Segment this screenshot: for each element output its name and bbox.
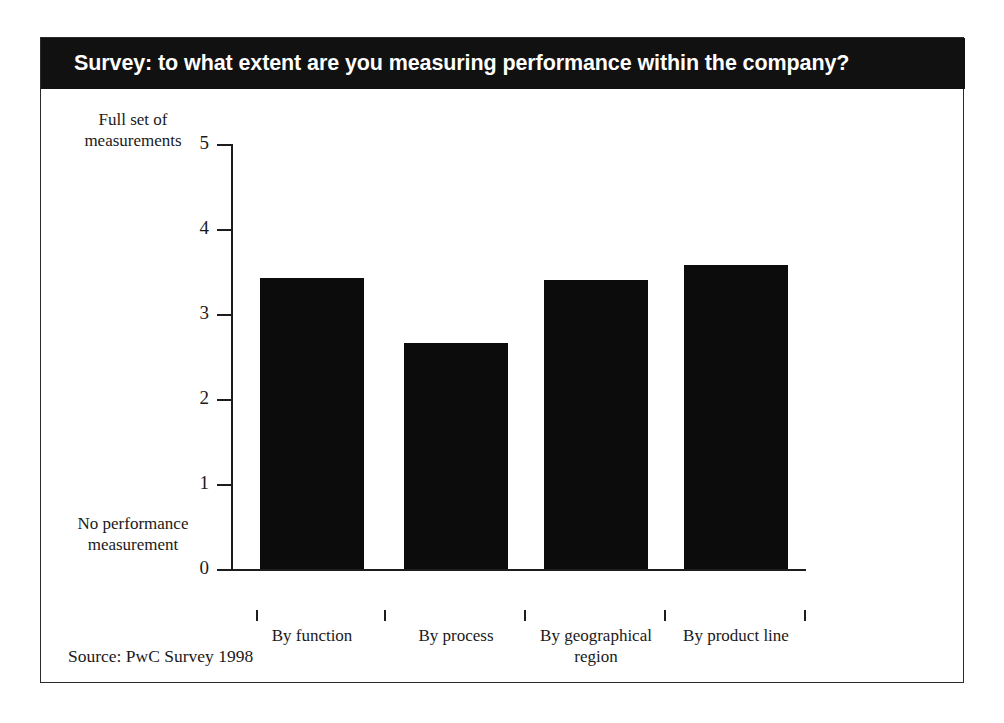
- y-tick-1: 1: [217, 484, 233, 486]
- x-label-line1: By process: [390, 625, 522, 646]
- y-axis-caption-bottom: No performance measurement: [49, 513, 217, 555]
- x-label-line1: By product line: [670, 625, 802, 646]
- x-tick-2: [524, 610, 526, 621]
- chart-title-banner: Survey: to what extent are you measuring…: [41, 38, 965, 89]
- y-tick-0: 0: [217, 569, 233, 571]
- x-label-line1: By function: [246, 625, 378, 646]
- bar-by-geographical-region: [544, 280, 648, 569]
- page-title: Survey: to what extent are you measuring…: [41, 51, 849, 76]
- y-tick-label-2: 2: [200, 388, 210, 408]
- x-label-by-function: By function: [246, 625, 378, 646]
- x-label-by-product-line: By product line: [670, 625, 802, 646]
- y-tick-5: 5: [217, 144, 233, 146]
- x-tick-0: [256, 610, 258, 621]
- y-tick-label-4: 4: [200, 218, 210, 238]
- y-tick-3: 3: [217, 314, 233, 316]
- bar-by-product-line: [684, 265, 788, 569]
- x-tick-3: [664, 610, 666, 621]
- x-label-line2: region: [530, 646, 662, 667]
- y-axis-caption-top-line2: measurements: [49, 130, 217, 151]
- x-axis-line: [231, 569, 806, 571]
- figure-frame: Survey: to what extent are you measuring…: [40, 37, 964, 683]
- x-label-line1: By geographical: [530, 625, 662, 646]
- x-label-by-process: By process: [390, 625, 522, 646]
- y-axis-caption-top: Full set of measurements: [49, 109, 217, 151]
- x-tick-4: [804, 610, 806, 621]
- y-tick-label-0: 0: [200, 558, 210, 578]
- y-tick-2: 2: [217, 399, 233, 401]
- y-tick-label-3: 3: [200, 303, 210, 323]
- y-axis-line: [231, 144, 233, 571]
- y-axis-caption-top-line1: Full set of: [49, 109, 217, 130]
- x-tick-1: [384, 610, 386, 621]
- y-tick-label-1: 1: [200, 473, 210, 493]
- bar-by-function: [260, 278, 364, 569]
- y-axis-caption-bottom-line2: measurement: [49, 534, 217, 555]
- source-note: Source: PwC Survey 1998: [68, 646, 253, 667]
- y-axis-caption-bottom-line1: No performance: [49, 513, 217, 534]
- bar-by-process: [404, 343, 508, 569]
- y-tick-4: 4: [217, 229, 233, 231]
- plot-area: 5 4 3 2 1 0 Full set of measurements: [41, 89, 965, 684]
- x-label-by-geographical-region: By geographical region: [530, 625, 662, 667]
